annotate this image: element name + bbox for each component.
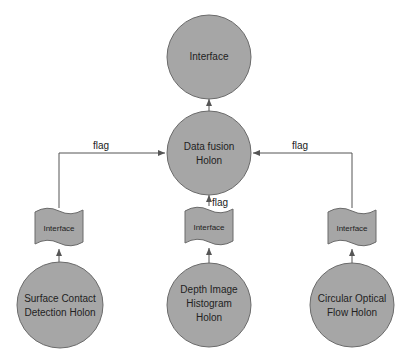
node-top-interface-label: Interface [190, 51, 229, 62]
node-optical-line1: Circular Optical [318, 293, 386, 304]
node-depth-line2: Histogram [186, 298, 232, 309]
node-top-interface[interactable]: Interface [167, 15, 251, 99]
node-fusion-line2: Holon [196, 155, 222, 166]
node-circular-optical-flow-holon[interactable]: Circular Optical Flow Holon [310, 263, 394, 347]
holon-diagram: flag flag flag Interface Data fusion Hol… [0, 0, 410, 355]
edge-left-to-fusion [59, 153, 165, 208]
node-interface-left[interactable]: Interface [35, 208, 83, 246]
node-optical-line2: Flow Holon [327, 307, 377, 318]
node-data-fusion-holon[interactable]: Data fusion Holon [167, 111, 251, 195]
node-interface-center[interactable]: Interface [185, 207, 233, 245]
node-depth-line1: Depth Image [180, 284, 238, 295]
node-interface-right[interactable]: Interface [328, 208, 376, 246]
node-surface-contact-detection-holon[interactable]: Surface Contact Detection Holon [17, 262, 103, 348]
edge-right-to-fusion [253, 153, 352, 208]
edge-label-left: flag [93, 140, 109, 151]
node-depth-line3: Holon [196, 312, 222, 323]
node-interface-left-label: Interface [43, 224, 75, 233]
node-interface-right-label: Interface [336, 224, 368, 233]
node-fusion-line1: Data fusion [184, 141, 235, 152]
node-interface-center-label: Interface [193, 223, 225, 232]
node-surface-line1: Surface Contact [24, 293, 96, 304]
edge-label-right: flag [292, 140, 308, 151]
node-surface-line2: Detection Holon [24, 307, 95, 318]
edge-label-center: flag [212, 197, 228, 208]
node-depth-image-histogram-holon[interactable]: Depth Image Histogram Holon [167, 263, 251, 347]
